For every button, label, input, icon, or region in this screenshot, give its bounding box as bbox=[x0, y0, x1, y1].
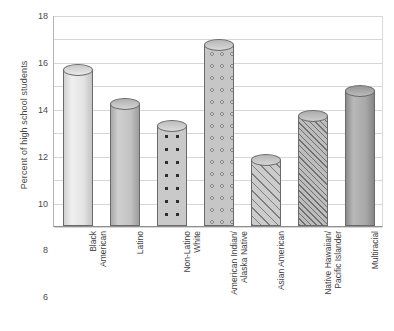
y-tick-label: 18 bbox=[38, 11, 48, 21]
y-tick-label: 14 bbox=[38, 105, 48, 115]
y-tick-label: 8 bbox=[43, 245, 48, 255]
x-tick-label-line: Latino bbox=[135, 231, 145, 327]
bar-fill bbox=[64, 70, 92, 225]
x-axis-category-labels: BlackAmericanLatinoNon-LatinoWhiteAmeric… bbox=[53, 231, 383, 329]
x-tick-label-line: Non-Latino bbox=[182, 231, 192, 327]
x-tick-label-line: Native Hawaiian/ bbox=[323, 231, 333, 327]
bar-fill bbox=[252, 160, 280, 225]
bar bbox=[204, 45, 234, 226]
y-tick-label: 6 bbox=[43, 292, 48, 302]
x-tick-label-line: White bbox=[192, 231, 202, 327]
x-tick-label-line: Pacific Islander bbox=[333, 231, 343, 327]
bar-fill bbox=[299, 116, 327, 225]
x-tick-label-line: American Indian/ bbox=[229, 231, 239, 327]
x-tick-label-line: Alaska Native bbox=[239, 231, 249, 327]
x-tick-label: Non-LatinoWhite bbox=[182, 231, 202, 327]
bar-fill bbox=[158, 126, 186, 225]
bar-top-cap bbox=[298, 110, 328, 122]
bar bbox=[251, 160, 281, 226]
x-tick-label-line: Asian American bbox=[276, 231, 286, 327]
y-tick-label: 16 bbox=[38, 58, 48, 68]
bar-fill bbox=[205, 45, 233, 225]
plot-area: 024681012141618 bbox=[53, 16, 383, 227]
bar-fill bbox=[346, 91, 374, 225]
gridline: 0 bbox=[54, 227, 382, 228]
y-axis-title: Percent of high school students bbox=[19, 25, 29, 225]
x-tick-label: Multiracial bbox=[370, 231, 380, 327]
bar-fill bbox=[111, 104, 139, 225]
x-tick-label-line: American bbox=[98, 231, 108, 327]
bars-group bbox=[54, 16, 382, 226]
x-tick-label: Latino bbox=[135, 231, 145, 327]
bar bbox=[110, 104, 140, 226]
x-tick-label-line: Black bbox=[88, 231, 98, 327]
x-tick-label: Asian American bbox=[276, 231, 286, 327]
x-tick-label: BlackAmerican bbox=[88, 231, 108, 327]
x-tick-label-line: Multiracial bbox=[370, 231, 380, 327]
bar-top-cap bbox=[110, 98, 140, 110]
x-tick-label: American Indian/Alaska Native bbox=[229, 231, 249, 327]
bar bbox=[298, 116, 328, 226]
bar bbox=[63, 70, 93, 226]
bar-chart: Percent of high school students 02468101… bbox=[0, 0, 394, 331]
x-tick-label: Native Hawaiian/Pacific Islander bbox=[323, 231, 343, 327]
bar bbox=[345, 91, 375, 226]
bar bbox=[157, 126, 187, 226]
y-tick-label: 10 bbox=[38, 199, 48, 209]
y-tick-label: 12 bbox=[38, 152, 48, 162]
bar-top-cap bbox=[63, 64, 93, 76]
